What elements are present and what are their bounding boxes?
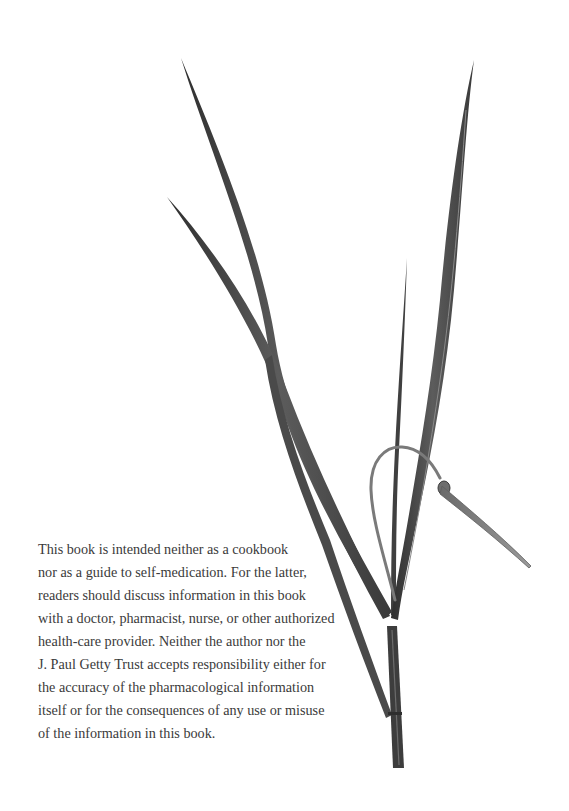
disclaimer-line: itself or for the consequences of any us… bbox=[38, 699, 368, 722]
disclaimer-line: health-care provider. Neither the author… bbox=[38, 630, 368, 653]
disclaimer-text: This book is intended neither as a cookb… bbox=[38, 538, 368, 745]
disclaimer-line: the accuracy of the pharmacological info… bbox=[38, 676, 368, 699]
book-page: This book is intended neither as a cookb… bbox=[0, 0, 569, 811]
disclaimer-line: with a doctor, pharmacist, nurse, or oth… bbox=[38, 607, 368, 630]
stem-node bbox=[388, 712, 402, 715]
disclaimer-line: This book is intended neither as a cookb… bbox=[38, 538, 368, 561]
disclaimer-line: J. Paul Getty Trust accepts responsibili… bbox=[38, 653, 368, 676]
disclaimer-line: of the information in this book. bbox=[38, 722, 368, 745]
leaf-curled-loop bbox=[371, 447, 440, 600]
disclaimer-line: nor as a guide to self-medication. For t… bbox=[38, 561, 368, 584]
leaf-long-left bbox=[181, 58, 392, 618]
leaf-trailing-tip bbox=[440, 486, 531, 568]
disclaimer-line: readers should discuss information in th… bbox=[38, 584, 368, 607]
